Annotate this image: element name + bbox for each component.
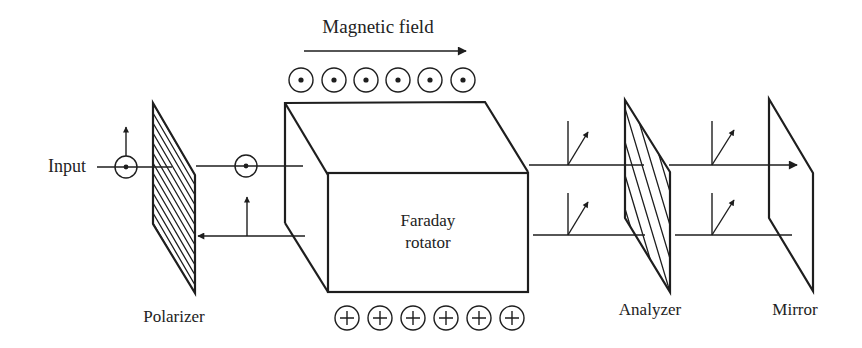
input-label: Input xyxy=(48,156,86,176)
rotator-label-line1: Faraday xyxy=(401,211,456,230)
field-in-icon xyxy=(467,306,491,330)
field-out-icon xyxy=(322,68,346,92)
forward-beam-segment-1 xyxy=(196,155,303,177)
faraday-rotator: Faraday rotator xyxy=(285,102,528,292)
analyzer: Analyzer xyxy=(581,95,700,319)
rotated-polarization-arrow-icon xyxy=(568,202,588,235)
analyzer-label: Analyzer xyxy=(619,300,682,319)
field-out-icon xyxy=(386,68,410,92)
rotated-polarization-arrow-icon xyxy=(712,130,734,165)
field-in-icon xyxy=(500,306,524,330)
rotator-label-line2: rotator xyxy=(405,233,451,252)
field-in-symbols xyxy=(335,306,524,330)
field-in-icon xyxy=(368,306,392,330)
magnetic-field-label: Magnetic field xyxy=(322,16,434,37)
field-in-icon xyxy=(434,306,458,330)
faraday-isolator-diagram: Magnetic field Input Polarizer xyxy=(0,0,862,348)
field-out-icon xyxy=(354,68,378,92)
beams-analyzer-to-mirror xyxy=(669,121,797,235)
field-in-icon xyxy=(335,306,359,330)
field-in-icon xyxy=(401,306,425,330)
mirror-label: Mirror xyxy=(772,300,818,319)
field-out-icon xyxy=(289,68,313,92)
rotated-polarization-arrow-icon xyxy=(712,200,734,235)
polarizer: Polarizer xyxy=(143,93,205,326)
field-out-icon xyxy=(451,68,475,92)
rotated-polarization-arrow-icon xyxy=(568,132,588,165)
field-out-icon xyxy=(418,68,442,92)
polarizer-label: Polarizer xyxy=(143,307,205,326)
field-out-symbols xyxy=(289,68,475,92)
mirror: Mirror xyxy=(769,99,818,319)
magnetic-field-indicator: Magnetic field xyxy=(304,16,466,51)
